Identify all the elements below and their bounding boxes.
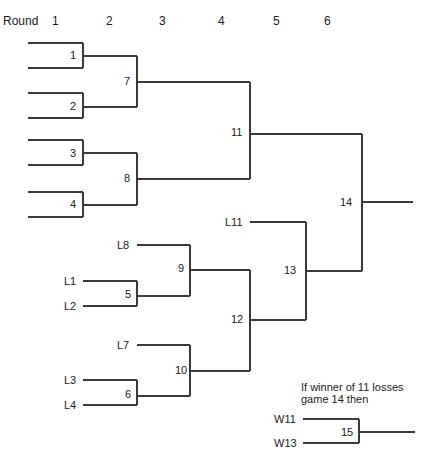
game-6-label: 6 [125, 388, 131, 400]
round-3-label: 3 [159, 14, 166, 28]
game-13-bracket [250, 222, 362, 320]
round-header-label: Round [3, 14, 38, 28]
game-1-label: 1 [70, 49, 76, 61]
note-line-2: game 14 then [301, 393, 421, 405]
entrant-L8-label: L8 [117, 239, 129, 251]
game-9-bracket [137, 245, 250, 296]
game-3-bracket [28, 140, 137, 165]
game-10-label: 10 [175, 364, 187, 376]
game-12-bracket [250, 270, 306, 371]
game-2-label: 2 [70, 100, 76, 112]
entrant-L1-label: L1 [64, 275, 76, 287]
game-10-bracket [137, 345, 250, 396]
conditional-game-note: If winner of 11 losses game 14 then [301, 381, 421, 405]
game-8-label: 8 [124, 172, 130, 184]
game-6-bracket [83, 380, 190, 405]
game-13-label: 13 [284, 264, 296, 276]
game-5-label: 5 [125, 288, 131, 300]
round-6-label: 6 [324, 14, 331, 28]
game-4-bracket [28, 192, 137, 217]
game-15-bracket [303, 419, 415, 443]
game-15-label: 15 [341, 426, 353, 438]
entrant-W13-label: W13 [274, 437, 297, 449]
entrant-L11-label: L11 [225, 216, 243, 228]
note-line-1: If winner of 11 losses [301, 381, 421, 393]
entrant-W11-label: W11 [274, 413, 296, 425]
game-5-bracket [83, 281, 190, 306]
round-1-label: 1 [52, 14, 59, 28]
round-4-label: 4 [218, 14, 225, 28]
entrant-L4-label: L4 [64, 399, 76, 411]
game-2-bracket [28, 93, 137, 118]
game-11-bracket [250, 82, 362, 179]
game-1-bracket [28, 43, 137, 68]
game-4-label: 4 [70, 198, 76, 210]
round-5-label: 5 [273, 14, 280, 28]
game-14-label: 14 [340, 196, 352, 208]
game-7-bracket [137, 56, 250, 107]
game-11-label: 11 [231, 126, 242, 138]
game-12-label: 12 [231, 313, 243, 325]
game-8-bracket [137, 153, 250, 205]
round-2-label: 2 [106, 14, 113, 28]
game-9-label: 9 [178, 262, 184, 274]
game-3-label: 3 [70, 147, 76, 159]
entrant-L3-label: L3 [64, 374, 76, 386]
game-7-label: 7 [124, 75, 130, 87]
entrant-L7-label: L7 [117, 339, 129, 351]
entrant-L2-label: L2 [64, 300, 76, 312]
game-14-bracket [362, 134, 413, 271]
